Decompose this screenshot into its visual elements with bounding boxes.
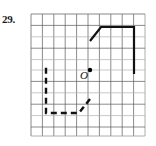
preimage-quadrilateral-solid: [90, 27, 134, 74]
figure-container: 29.: [0, 0, 156, 146]
center-of-rotation-point: [88, 68, 92, 72]
origin-label: O: [80, 69, 88, 81]
geometry-figure: O: [0, 0, 156, 146]
grid-group: [31, 14, 145, 136]
